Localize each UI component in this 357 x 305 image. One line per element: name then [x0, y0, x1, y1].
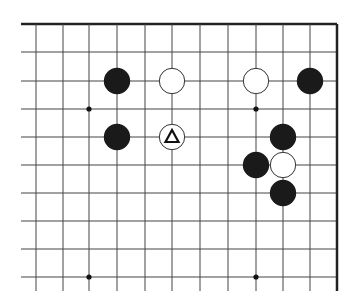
star-point [253, 106, 258, 111]
white-stone [243, 68, 268, 93]
white-stone [159, 68, 184, 93]
black-stone [270, 180, 296, 206]
go-board [0, 0, 357, 305]
star-point [86, 274, 91, 279]
black-stone [297, 68, 323, 94]
white-stone [270, 152, 295, 177]
star-point [253, 274, 258, 279]
white-stone [159, 124, 184, 149]
black-stone [243, 152, 269, 178]
black-stone [270, 124, 296, 150]
black-stone [104, 124, 130, 150]
star-point [86, 106, 91, 111]
black-stone [104, 68, 130, 94]
